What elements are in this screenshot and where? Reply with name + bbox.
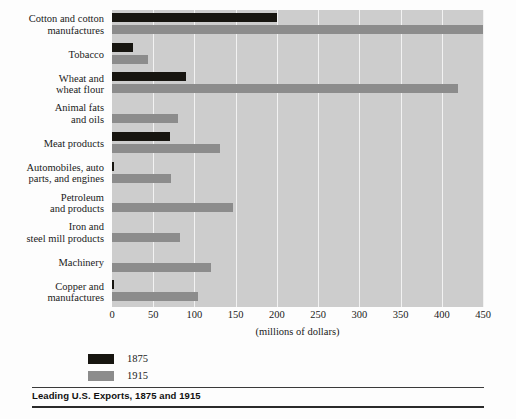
- bar-row: [112, 218, 483, 248]
- bar-1915: [112, 55, 148, 64]
- bar-1875: [112, 13, 277, 22]
- category-label: Copper andmanufactures: [0, 281, 104, 304]
- bar-1915: [112, 84, 458, 93]
- x-tick-label: 400: [434, 309, 450, 320]
- caption-rule-top: [32, 387, 484, 388]
- x-tick-label: 50: [148, 309, 159, 320]
- bar-1915: [112, 263, 211, 272]
- caption-rule-bottom: [32, 406, 484, 408]
- bar-1875: [112, 132, 170, 141]
- category-label: Wheat andwheat flour: [0, 73, 104, 96]
- legend-swatch-1915: [88, 371, 114, 381]
- bar-row: [112, 129, 483, 159]
- bar-row: [112, 248, 483, 278]
- bar-1875: [112, 43, 133, 52]
- legend-swatch-1875: [88, 354, 114, 364]
- category-axis: Cotton and cottonmanufacturesTobaccoWhea…: [0, 10, 108, 307]
- category-label: Animal fatsand oils: [0, 102, 104, 125]
- chart-page: Cotton and cottonmanufacturesTobaccoWhea…: [0, 0, 516, 419]
- bar-1875: [112, 162, 114, 171]
- x-axis-label: (millions of dollars): [112, 326, 483, 337]
- bar-1915: [112, 292, 198, 301]
- bar-row: [112, 188, 483, 218]
- category-label: Iron andsteel mill products: [0, 221, 104, 244]
- bar-1875: [112, 280, 114, 289]
- bar-rows: [112, 10, 483, 307]
- bar-1915: [112, 144, 220, 153]
- category-label: Machinery: [0, 257, 104, 269]
- legend-item-1875: 1875: [88, 352, 248, 365]
- plot-area: [112, 10, 483, 307]
- bar-row: [112, 277, 483, 307]
- bar-row: [112, 40, 483, 70]
- bar-1915: [112, 114, 178, 123]
- bar-chart: Cotton and cottonmanufacturesTobaccoWhea…: [0, 0, 516, 340]
- bar-row: [112, 69, 483, 99]
- category-label: Petroleumand products: [0, 192, 104, 215]
- legend-label-1875: 1875: [127, 353, 148, 364]
- x-tick-label: 150: [228, 309, 244, 320]
- x-tick-label: 450: [475, 309, 491, 320]
- x-tick-label: 200: [269, 309, 285, 320]
- bar-1875: [112, 72, 186, 81]
- x-tick-label: 0: [109, 309, 114, 320]
- category-label: Automobiles, autoparts, and engines: [0, 162, 104, 185]
- legend: 1875 1915: [88, 352, 248, 386]
- x-tick-label: 350: [393, 309, 409, 320]
- bar-1915: [112, 25, 483, 34]
- legend-label-1915: 1915: [127, 370, 148, 381]
- bar-1915: [112, 174, 171, 183]
- gridline: [483, 10, 484, 307]
- legend-item-1915: 1915: [88, 369, 248, 382]
- bar-row: [112, 159, 483, 189]
- bar-1915: [112, 233, 180, 242]
- bar-row: [112, 99, 483, 129]
- bar-1915: [112, 203, 233, 212]
- category-label: Cotton and cottonmanufactures: [0, 13, 104, 36]
- category-label: Meat products: [0, 138, 104, 150]
- figure-caption: Leading U.S. Exports, 1875 and 1915: [32, 390, 484, 401]
- bar-row: [112, 10, 483, 40]
- category-label: Tobacco: [0, 49, 104, 61]
- x-tick-label: 100: [187, 309, 203, 320]
- x-axis-ticks: 050100150200250300350400450: [112, 309, 483, 325]
- x-tick-label: 300: [351, 309, 367, 320]
- x-tick-label: 250: [310, 309, 326, 320]
